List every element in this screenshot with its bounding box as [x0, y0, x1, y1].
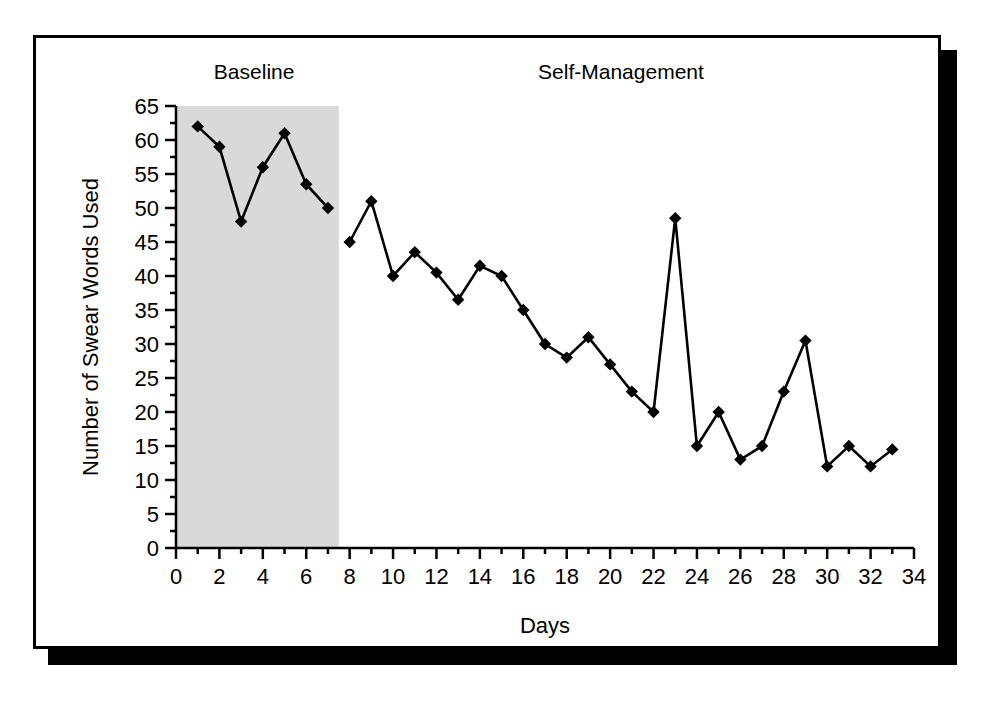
y-tick-label: 40	[135, 264, 159, 289]
x-tick-label: 22	[641, 564, 665, 589]
x-tick-label: 28	[772, 564, 796, 589]
x-tick-label: 0	[170, 564, 182, 589]
data-point-marker	[799, 334, 811, 346]
y-tick-label: 30	[135, 332, 159, 357]
x-tick-label: 12	[424, 564, 448, 589]
x-tick-label: 30	[815, 564, 839, 589]
y-tick-label: 0	[147, 536, 159, 561]
x-tick-label: 26	[728, 564, 752, 589]
y-tick-label: 10	[135, 468, 159, 493]
x-tick-label: 34	[902, 564, 926, 589]
x-tick-label: 4	[257, 564, 269, 589]
data-point-marker	[669, 212, 681, 224]
data-point-marker	[539, 338, 551, 350]
x-tick-label: 18	[554, 564, 578, 589]
y-tick-label: 65	[135, 94, 159, 119]
x-tick-label: 14	[468, 564, 492, 589]
x-tick-label: 20	[598, 564, 622, 589]
data-point-marker	[343, 236, 355, 248]
phase-shading-0	[176, 106, 339, 548]
x-tick-label: 24	[685, 564, 709, 589]
y-tick-label: 45	[135, 230, 159, 255]
data-point-marker	[712, 406, 724, 418]
y-tick-label: 20	[135, 400, 159, 425]
x-tick-label: 2	[213, 564, 225, 589]
y-tick-label: 25	[135, 366, 159, 391]
data-line-segment-1	[350, 201, 893, 466]
y-tick-label: 50	[135, 196, 159, 221]
data-point-marker	[365, 195, 377, 207]
data-point-marker	[474, 260, 486, 272]
x-tick-label: 8	[344, 564, 356, 589]
x-tick-label: 16	[511, 564, 535, 589]
phase-label-1: Self-Management	[538, 60, 704, 83]
data-point-marker	[734, 453, 746, 465]
y-tick-label: 55	[135, 162, 159, 187]
data-point-marker	[691, 440, 703, 452]
x-axis-title: Days	[520, 613, 570, 638]
data-point-marker	[517, 304, 529, 316]
data-point-marker	[778, 385, 790, 397]
phase-label-0: Baseline	[214, 60, 295, 83]
y-tick-label: 35	[135, 298, 159, 323]
data-point-marker	[756, 440, 768, 452]
y-tick-label: 5	[147, 502, 159, 527]
data-point-marker	[495, 270, 507, 282]
x-tick-label: 6	[300, 564, 312, 589]
chart-plot-area: BaselineSelf-Management05101520253035404…	[36, 38, 938, 646]
x-tick-label: 10	[381, 564, 405, 589]
y-axis-title: Number of Swear Words Used	[78, 178, 103, 476]
x-tick-label: 32	[858, 564, 882, 589]
y-tick-label: 15	[135, 434, 159, 459]
y-tick-label: 60	[135, 128, 159, 153]
figure-frame: BaselineSelf-Management05101520253035404…	[33, 35, 941, 649]
line-chart: BaselineSelf-Management05101520253035404…	[36, 38, 938, 646]
